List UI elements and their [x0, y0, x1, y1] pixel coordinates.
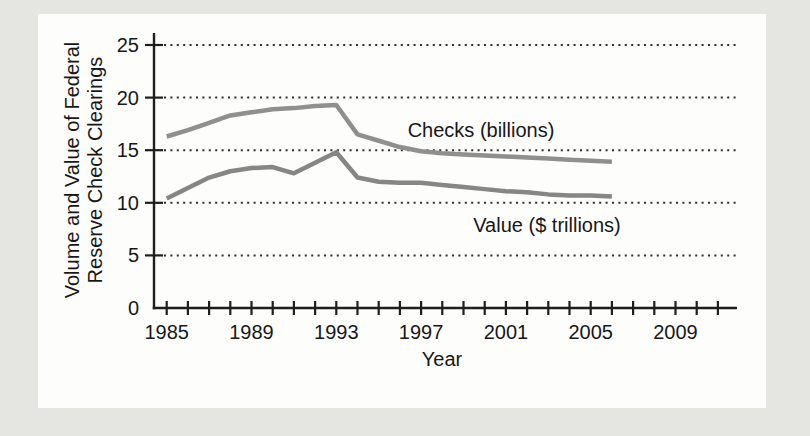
y-tick-label-0: 0: [128, 297, 139, 319]
page: { "page": { "background_color": "#e5e5e2…: [0, 0, 810, 436]
x-tick-label-1993: 1993: [314, 321, 359, 343]
y-axis-title-line1: Volume and Value of Federal: [61, 42, 83, 298]
x-axis-title: Year: [422, 348, 462, 371]
y-axis-title: Volume and Value of Federal Reserve Chec…: [61, 42, 107, 298]
x-tick-label-1989: 1989: [229, 321, 274, 343]
y-axis-title-line2: Reserve Check Clearings: [84, 57, 106, 284]
y-tick-label-10: 10: [117, 192, 139, 214]
y-tick-label-20: 20: [117, 87, 139, 109]
x-tick-label-1997: 1997: [399, 321, 444, 343]
y-tick-label-15: 15: [117, 139, 139, 161]
series-label-value: Value ($ trillions): [473, 214, 620, 237]
x-tick-label-1985: 1985: [144, 321, 189, 343]
x-tick-label-2009: 2009: [653, 321, 698, 343]
line-chart: 05101520251985198919931997200120052009: [38, 14, 766, 408]
chart-panel: 05101520251985198919931997200120052009 V…: [38, 14, 766, 408]
y-tick-label-5: 5: [128, 244, 139, 266]
x-tick-label-2005: 2005: [568, 321, 613, 343]
y-tick-label-25: 25: [117, 34, 139, 56]
x-tick-label-2001: 2001: [484, 321, 529, 343]
series-label-checks: Checks (billions): [408, 119, 555, 142]
